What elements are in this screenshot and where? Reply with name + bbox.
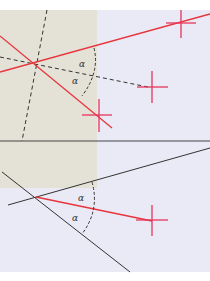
bottom-angle-label-2: α (72, 213, 78, 223)
top-angle-label-2: α (72, 76, 78, 86)
top-angle-label-1: α (79, 59, 85, 69)
reflection-diagram: α α α α (0, 0, 210, 281)
bottom-angle-label-1: α (78, 193, 84, 203)
bottom-panel-beige-bg (0, 141, 97, 188)
